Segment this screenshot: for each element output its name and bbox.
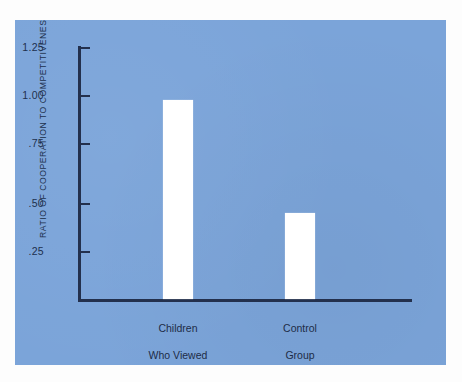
x-category-label-0: Children Who Viewed ’’The Swing’’ xyxy=(128,308,228,365)
y-tick-mark-1-00 xyxy=(81,95,90,97)
y-tick-label-0-25: .25 xyxy=(15,246,44,257)
x-axis-line xyxy=(78,299,412,302)
x-category-label-0-line2: Who Viewed xyxy=(128,349,228,363)
x-category-label-1-line2: Group xyxy=(250,349,350,363)
y-tick-mark-0-50 xyxy=(81,203,90,205)
y-tick-mark-0-75 xyxy=(81,143,90,145)
y-tick-mark-1-25 xyxy=(81,47,90,49)
y-tick-label-0-75: .75 xyxy=(15,138,44,149)
x-category-label-1: Control Group xyxy=(250,308,350,365)
y-axis-line xyxy=(78,46,81,302)
y-tick-label-1-25: 1.25 xyxy=(15,42,44,53)
plot-area: RATIO OF COOPERATION TO COMPETITIVENESS … xyxy=(15,20,446,365)
x-category-label-1-line1: Control xyxy=(250,322,350,336)
bar-children-who-viewed-the-swing xyxy=(163,100,193,299)
y-tick-label-0-50: .50 xyxy=(15,198,44,209)
y-tick-mark-0-25 xyxy=(81,251,90,253)
x-category-label-0-line1: Children xyxy=(128,322,228,336)
chart-figure: RATIO OF COOPERATION TO COMPETITIVENESS … xyxy=(0,0,462,382)
chart-panel: RATIO OF COOPERATION TO COMPETITIVENESS … xyxy=(15,20,446,365)
bar-control-group xyxy=(285,213,315,299)
y-tick-label-1-00: 1.00 xyxy=(15,90,44,101)
